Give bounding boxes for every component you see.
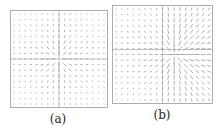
vector-field-a: [10, 10, 108, 108]
caption-a: (a): [38, 112, 78, 126]
vector-field-b: [112, 5, 213, 104]
plot-a: [10, 10, 108, 108]
plot-b: [112, 5, 213, 104]
arrows: [115, 7, 211, 102]
caption-b: (b): [142, 108, 182, 122]
